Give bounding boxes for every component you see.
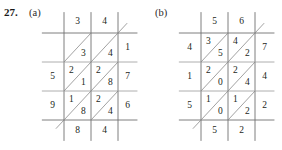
cell-lower-digit: 2 bbox=[245, 106, 250, 116]
cell-upper-digit: 4 bbox=[233, 36, 238, 46]
cell-upper-digit: 2 bbox=[206, 65, 211, 75]
diagonal-tail bbox=[255, 23, 264, 33]
bottom-digit: 5 bbox=[212, 125, 217, 135]
left-digit: 4 bbox=[187, 42, 192, 52]
cell-upper-digit: 3 bbox=[206, 36, 211, 46]
diagonal-tail bbox=[193, 120, 201, 129]
cell-lower-digit: 0 bbox=[218, 77, 223, 87]
bottom-digit: 2 bbox=[239, 125, 244, 135]
lattice-grid-b: 3542202410125652742415 bbox=[0, 0, 282, 150]
cell-upper-digit: 2 bbox=[233, 65, 238, 75]
top-digit: 6 bbox=[239, 16, 244, 26]
cell-upper-digit: 1 bbox=[233, 94, 238, 104]
right-digit: 4 bbox=[262, 71, 267, 81]
left-digit: 1 bbox=[187, 71, 192, 81]
right-digit: 2 bbox=[262, 100, 267, 110]
exercise-figure: 27. (a) (b) 3421281824348417659 35422024… bbox=[0, 0, 282, 150]
right-digit: 7 bbox=[262, 42, 267, 52]
cell-lower-digit: 4 bbox=[245, 77, 250, 87]
left-digit: 5 bbox=[187, 100, 192, 110]
cell-lower-digit: 5 bbox=[218, 48, 223, 58]
cell-upper-digit: 1 bbox=[206, 94, 211, 104]
cell-lower-digit: 0 bbox=[218, 106, 223, 116]
top-digit: 5 bbox=[212, 16, 217, 26]
cell-lower-digit: 2 bbox=[245, 48, 250, 58]
